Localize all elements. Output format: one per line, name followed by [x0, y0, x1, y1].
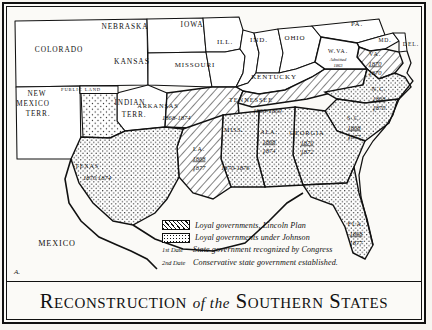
label-del: DEL.: [403, 41, 419, 47]
label-la: LA.: [193, 146, 205, 152]
label-tennessee: TENNESSEE: [229, 96, 273, 103]
label-mexico: MEXICO: [38, 239, 76, 248]
label-colorado: COLORADO: [35, 45, 83, 54]
svg-text:Admitted: Admitted: [329, 57, 347, 62]
label-new: NEW: [27, 90, 46, 98]
legend-label-second-date: Conservative state government establishe…: [193, 258, 338, 267]
map-figure: COLORADONEBRASKAIOWAILL.IND.OHIOPA.MD.DE…: [0, 0, 432, 330]
legend-label-johnson: Loyal governments under Johnson: [195, 233, 310, 242]
label-missouri: MISSOURI: [175, 61, 216, 69]
title-part-southern: S: [236, 290, 248, 312]
label-pa: PA.: [351, 20, 363, 27]
label-miss: MISS.: [224, 127, 244, 133]
svg-text:W.VA.: W.VA.: [328, 48, 348, 54]
date1-va: 1870: [369, 60, 383, 67]
label-md: MD.: [378, 37, 391, 43]
label-nebraska: NEBRASKA: [101, 22, 148, 31]
svg-text:1863: 1863: [333, 63, 343, 68]
label-iowa: IOWA: [181, 20, 204, 29]
title-band: RECONSTRUCTION of the SOUTHERN STATES: [7, 283, 421, 319]
label-mexico: MEXICO: [16, 100, 50, 108]
dates-miss: 1870-1876: [221, 164, 250, 171]
legend-row-johnson: Loyal governments under Johnson: [162, 231, 338, 243]
dates-arkansas: 1868-1874: [162, 114, 191, 121]
label-kentucky: KENTUCKY: [251, 73, 297, 81]
dates-tennessee: 1866-1869: [253, 107, 282, 114]
label-va: VA.: [369, 51, 381, 57]
label-n-c: N.C.: [372, 86, 387, 92]
title-part-states-rest: TATES: [341, 295, 388, 311]
label-ala: ALA.: [260, 129, 277, 135]
label-georgia: GEORGIA: [289, 129, 324, 136]
date1-n-c: 1868: [373, 95, 387, 102]
date1-georgia: 1870: [301, 139, 315, 146]
legend-row-second-date: 2nd Date Conservative state government e…: [162, 256, 338, 268]
legend-row-first-date: 1st Date State government recognized by …: [162, 244, 338, 256]
title-part-reconstruction: R: [40, 290, 54, 312]
first-date-key: 1st Date: [162, 246, 188, 253]
title-part-states: S: [329, 290, 341, 312]
legend-label-lincoln-plan: Loyal governments, Lincoln Plan: [195, 221, 306, 230]
label-public-land: PUBLIC LAND: [61, 87, 101, 92]
map-legend: Loyal governments, Lincoln Plan Loyal go…: [162, 219, 338, 269]
plate-signature: A.: [14, 268, 20, 276]
date1-s-c: 1868: [348, 124, 362, 131]
label-arkansas: ARKANSAS: [137, 102, 179, 109]
label-ohio: OHIO: [284, 34, 305, 42]
title-part-of-the: of the: [193, 295, 230, 311]
label-terr: TERR.: [26, 110, 51, 118]
date1-ala: 1868: [263, 138, 277, 145]
legend-row-lincoln-plan: Loyal governments, Lincoln Plan: [162, 219, 338, 231]
date1-fla: 1868: [350, 230, 364, 237]
title-part-reconstruction-rest: ECONSTRUCTION: [54, 295, 187, 311]
date1-la: 1868: [193, 155, 207, 162]
label-fla: FLA.: [348, 221, 364, 227]
dates-texas: 1870 1874: [83, 174, 112, 181]
legend-label-first-date: State government recognized by Congress: [193, 245, 333, 254]
stipple-swatch-icon: [162, 233, 190, 243]
label-texas: TEXAS: [75, 163, 99, 169]
label-ill: ILL.: [217, 38, 233, 46]
title-divider: [7, 281, 421, 282]
label-terr: TERR.: [122, 111, 147, 119]
label-kansas: KANSAS: [114, 57, 150, 66]
label-s-c: S.C.: [347, 115, 361, 121]
title-part-southern-rest: OUTHERN: [248, 295, 324, 311]
second-date-key: 2nd Date: [162, 259, 188, 266]
page-title: RECONSTRUCTION of the SOUTHERN STATES: [40, 290, 388, 313]
label-ind: IND.: [250, 36, 268, 44]
hatch-swatch-icon: [162, 220, 190, 230]
